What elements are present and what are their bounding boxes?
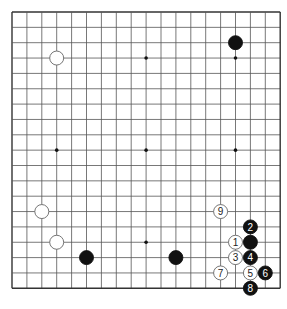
- board-background: [0, 0, 287, 309]
- star-point: [234, 56, 238, 60]
- black-stone[interactable]: 8: [243, 281, 257, 295]
- move-number: 8: [248, 283, 254, 294]
- stone-disc: [229, 36, 243, 50]
- go-board[interactable]: 123456789: [0, 0, 287, 309]
- white-stone[interactable]: 7: [214, 266, 228, 280]
- black-stone[interactable]: 6: [258, 266, 272, 280]
- move-number: 5: [248, 268, 254, 279]
- star-point: [234, 148, 238, 152]
- star-point: [144, 148, 148, 152]
- move-number: 4: [248, 252, 254, 263]
- white-stone[interactable]: 5: [243, 266, 257, 280]
- black-stone[interactable]: 2: [243, 220, 257, 234]
- stone-disc: [50, 51, 64, 65]
- stone-disc: [50, 235, 64, 249]
- stone-disc: [243, 235, 257, 249]
- star-point: [55, 148, 59, 152]
- stone-disc: [80, 251, 94, 265]
- stone-disc: [169, 251, 183, 265]
- black-stone[interactable]: 4: [243, 251, 257, 265]
- white-stone[interactable]: 3: [229, 251, 243, 265]
- white-stone[interactable]: [50, 51, 64, 65]
- move-number: 7: [218, 268, 224, 279]
- stone-disc: [35, 205, 49, 219]
- white-stone[interactable]: [35, 205, 49, 219]
- black-stone[interactable]: [169, 251, 183, 265]
- move-number: 3: [233, 252, 239, 263]
- move-number: 6: [263, 268, 269, 279]
- black-stone[interactable]: [243, 235, 257, 249]
- move-number: 2: [248, 222, 254, 233]
- move-number: 1: [233, 237, 239, 248]
- black-stone[interactable]: [229, 36, 243, 50]
- star-point: [144, 240, 148, 244]
- move-number: 9: [218, 206, 224, 217]
- white-stone[interactable]: [50, 235, 64, 249]
- star-point: [144, 56, 148, 60]
- black-stone[interactable]: [80, 251, 94, 265]
- white-stone[interactable]: 1: [229, 235, 243, 249]
- white-stone[interactable]: 9: [214, 205, 228, 219]
